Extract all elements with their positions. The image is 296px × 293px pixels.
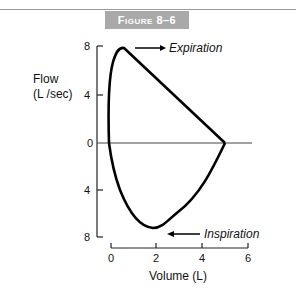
flow-volume-chart: 8 4 0 4 8 0 2 4 6 Volume (L) Expiration … (0, 0, 296, 293)
expiration-label: Expiration (169, 41, 223, 55)
x-tick-label: 4 (199, 252, 205, 264)
x-tick-label: 2 (153, 252, 159, 264)
x-tick-label: 6 (245, 252, 251, 264)
x-tick-label: 0 (108, 252, 114, 264)
y-tick-label: 0 (87, 137, 93, 149)
expiration-curve (108, 48, 225, 143)
y-tick-label: 8 (84, 40, 90, 52)
y-tick-label: 4 (84, 89, 90, 101)
y-tick-label: 8 (84, 231, 90, 243)
inspiration-curve (109, 143, 225, 228)
x-axis-title: Volume (L) (149, 269, 207, 283)
inspiration-label: Inspiration (204, 227, 260, 241)
y-tick-label: 4 (84, 184, 90, 196)
